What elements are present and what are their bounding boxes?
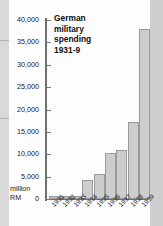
bar-1936 (105, 153, 116, 199)
y-tick-mark (47, 154, 51, 155)
y-tick-label: 40,000 (5, 16, 39, 24)
chart-figure: German military spending 1931-9 40,00035… (0, 0, 163, 226)
bar-1939 (139, 29, 150, 199)
y-tick-mark (47, 199, 51, 200)
bar-1938 (128, 122, 139, 199)
y-tick-label: 10,000 (5, 150, 39, 158)
plot-area: German military spending 1931-9 40,00035… (9, 0, 150, 226)
y-tick-mark (47, 177, 51, 178)
y-tick-label: 25,000 (5, 83, 39, 91)
title-line-2: military (54, 24, 132, 35)
y-tick-label: 15,000 (5, 128, 39, 136)
y-tick-label: 5,000 (5, 173, 39, 181)
title-line-3: spending (54, 34, 132, 45)
bar-1937 (116, 150, 127, 199)
y-tick-mark (47, 87, 51, 88)
y-tick-mark (47, 132, 51, 133)
y-tick-label: 35,000 (5, 38, 39, 46)
y-tick-label: 20,000 (5, 106, 39, 114)
chart-title: German military spending 1931-9 (54, 13, 132, 55)
y-tick-label: 30,000 (5, 61, 39, 69)
y-tick-mark (47, 110, 51, 111)
y-tick-mark (47, 20, 51, 21)
y-tick-mark (47, 42, 51, 43)
y-axis-unit-line-2: RM (10, 194, 21, 203)
title-line-1: German (54, 13, 132, 24)
title-line-4: 1931-9 (54, 45, 132, 56)
y-tick-mark (47, 65, 51, 66)
